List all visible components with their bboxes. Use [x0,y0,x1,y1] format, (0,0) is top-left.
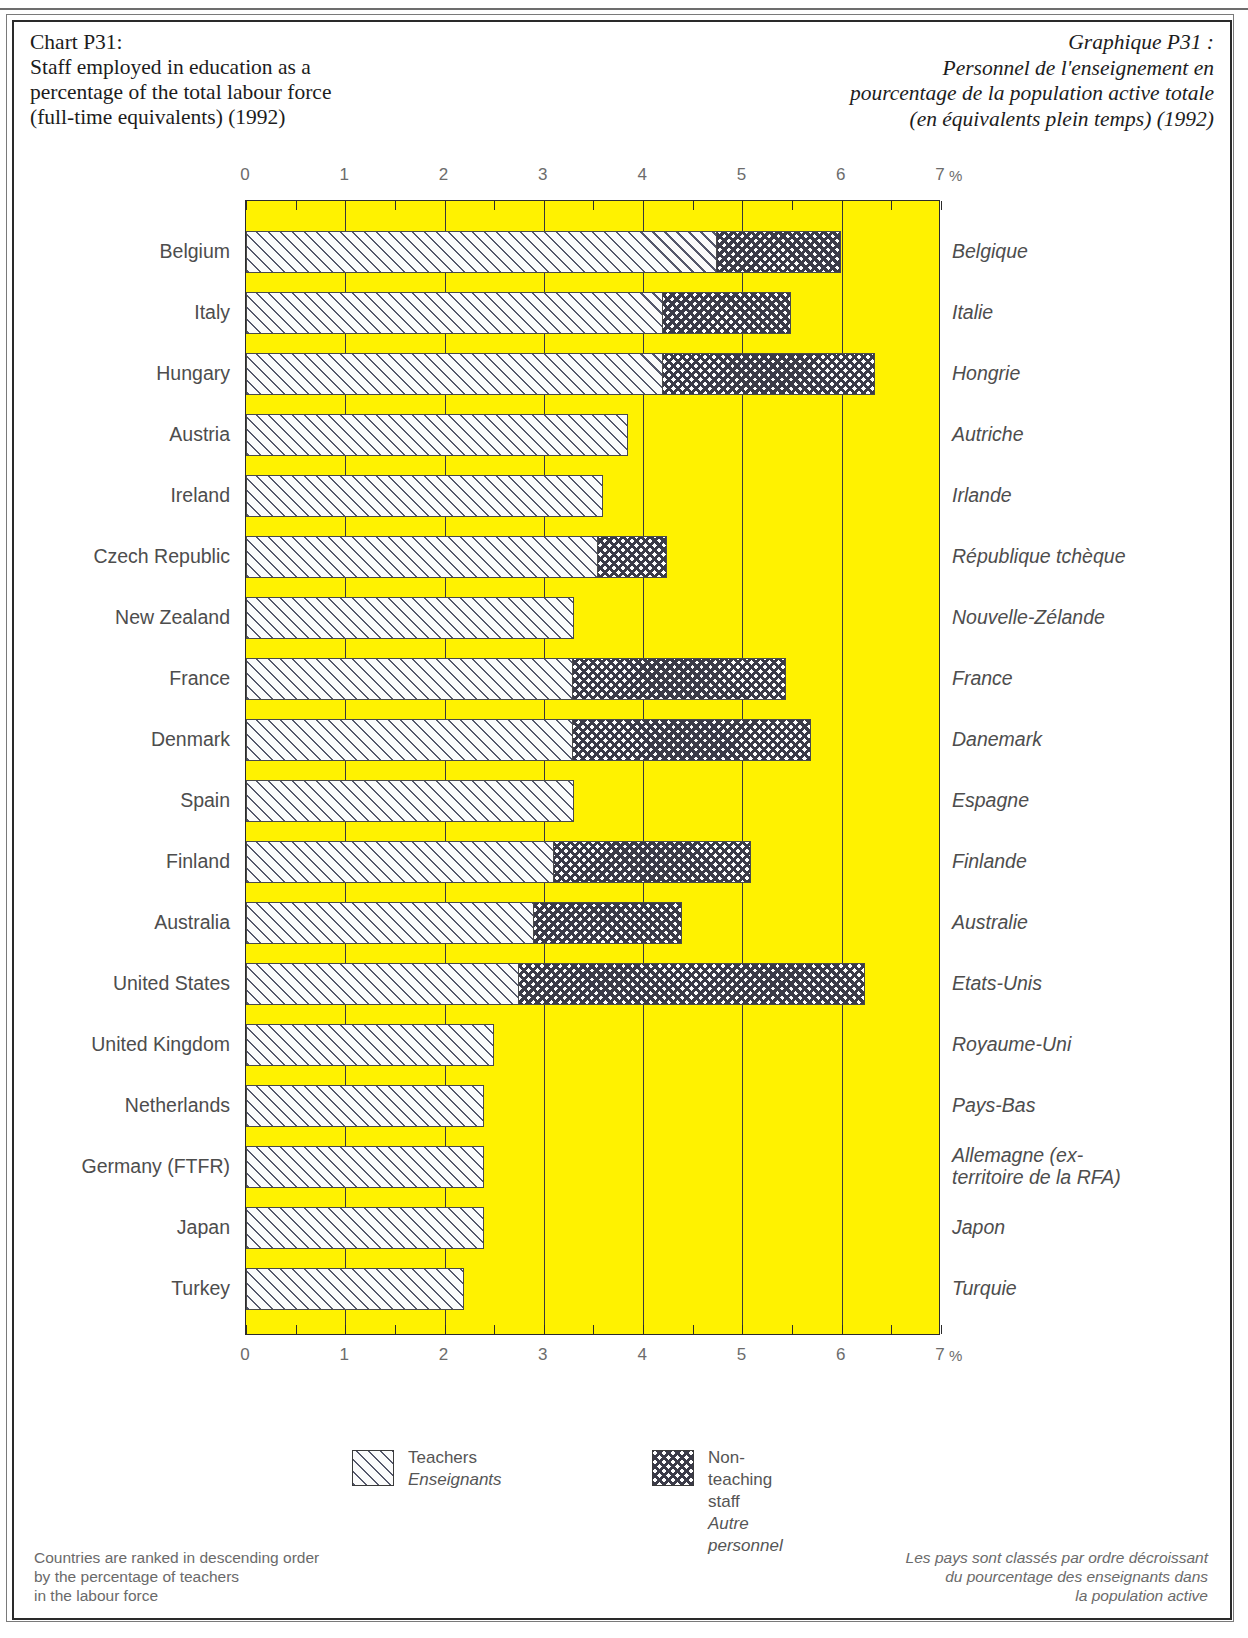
bar-segment-non-teaching [518,963,865,1005]
bar-segment-non-teaching [572,719,810,761]
country-label-french-line: Allemagne (ex- [952,1144,1232,1166]
axis-tick-mark [296,1325,297,1334]
legend-swatch-non-teaching [652,1450,694,1486]
bar-segment-teachers [246,231,718,273]
bar-segment-teachers [246,1024,494,1066]
country-label-french: Etats-Unis [952,972,1232,994]
country-label-french-line: Hongrie [952,362,1232,384]
country-label-french-line: Espagne [952,789,1232,811]
bar-segment-teachers [246,1146,484,1188]
bar-segment-teachers [246,414,628,456]
title-line: in the labour force [34,1586,319,1605]
country-label-french-line: France [952,667,1232,689]
bar-segment-teachers [246,292,663,334]
axis-tick-mark [643,1325,644,1334]
title-line: Personnel de l'enseignement en [614,56,1214,82]
axis-tick-label: 3 [523,165,563,185]
bar-segment-non-teaching [662,353,875,395]
chart-title-english: Chart P31:Staff employed in education as… [30,30,550,130]
axis-tick-label: 1 [324,1345,364,1365]
bar-segment-teachers [246,902,534,944]
axis-tick-mark [246,201,247,210]
axis-tick-mark [792,1325,793,1334]
country-label-french: Italie [952,301,1232,323]
country-label-english: Italy [0,301,230,323]
axis-tick-mark [891,201,892,210]
chart-legend: Teachers Enseignants Non-teaching staff … [0,1440,1248,1510]
bar-segment-non-teaching [533,902,682,944]
bar-segment-teachers [246,353,663,395]
bar-row [246,475,603,517]
title-line: pourcentage de la population active tota… [614,81,1214,107]
country-label-french-line: Etats-Unis [952,972,1232,994]
legend-label-non-teaching: Non-teaching staff Autre personnel [708,1447,783,1557]
top-rule [0,8,1248,10]
country-label-english: Ireland [0,484,230,506]
axis-tick-label: 2 [424,1345,464,1365]
country-label-french-line: territoire de la RFA) [952,1166,1232,1188]
country-label-french: Finlande [952,850,1232,872]
title-line: Les pays sont classés par ordre décroiss… [906,1548,1208,1567]
country-label-english: Germany (FTFR) [0,1155,230,1177]
bar-segment-teachers [246,1207,484,1249]
axis-tick-mark [693,1325,694,1334]
chart-page: Chart P31:Staff employed in education as… [0,0,1248,1638]
country-label-french: Turquie [952,1277,1232,1299]
country-label-french: Royaume-Uni [952,1033,1232,1055]
country-label-french-line: Turquie [952,1277,1232,1299]
axis-tick-mark [742,201,743,210]
bar-segment-teachers [246,963,519,1005]
axis-tick-mark [494,1325,495,1334]
country-label-french: République tchèque [952,545,1232,567]
country-label-french: Australie [952,911,1232,933]
title-line: Staff employed in education as a [30,55,550,80]
bar-row [246,1268,464,1310]
country-label-french: Pays-Bas [952,1094,1232,1116]
title-line: percentage of the total labour force [30,80,550,105]
bar-segment-teachers [246,841,554,883]
axis-tick-mark [693,201,694,210]
title-line: Graphique P31 : [614,30,1214,56]
country-label-english: Netherlands [0,1094,230,1116]
country-label-french: Japon [952,1216,1232,1238]
country-label-english: Belgium [0,240,230,262]
axis-tick-label: 6 [821,1345,861,1365]
country-label-english: Denmark [0,728,230,750]
bar-segment-teachers [246,719,574,761]
bar-segment-teachers [246,536,598,578]
country-label-french-line: Finlande [952,850,1232,872]
country-label-french-line: Danemark [952,728,1232,750]
legend-swatch-teachers [352,1450,394,1486]
axis-tick-mark [941,201,942,210]
axis-tick-mark [544,1325,545,1334]
bar-segment-teachers [246,1268,464,1310]
bar-row [246,780,574,822]
country-label-french-line: Italie [952,301,1232,323]
axis-tick-mark [941,1325,942,1334]
axis-tick-mark [246,1325,247,1334]
axis-tick-mark [742,1325,743,1334]
axis-tick-mark [643,201,644,210]
axis-tick-mark [593,1325,594,1334]
bar-row [246,658,787,700]
bar-segment-non-teaching [716,231,840,273]
country-label-english: Japan [0,1216,230,1238]
axis-tick-mark [792,201,793,210]
country-label-english: New Zealand [0,606,230,628]
axis-tick-label: 2 [424,165,464,185]
country-label-english: Australia [0,911,230,933]
country-label-french: Hongrie [952,362,1232,384]
country-label-english: Austria [0,423,230,445]
footnote-english: Countries are ranked in descending order… [34,1548,319,1605]
axis-tick-label: 6 [821,165,861,185]
bar-segment-teachers [246,658,574,700]
legend-non-teaching-fr: Autre personnel [708,1513,783,1557]
legend-teachers-fr: Enseignants [408,1469,502,1491]
country-label-english: United States [0,972,230,994]
country-label-french: Autriche [952,423,1232,445]
bar-row [246,719,812,761]
legend-label-teachers: Teachers Enseignants [408,1447,502,1491]
title-line: (full-time equivalents) (1992) [30,105,550,130]
bar-row [246,841,752,883]
axis-tick-mark [395,1325,396,1334]
